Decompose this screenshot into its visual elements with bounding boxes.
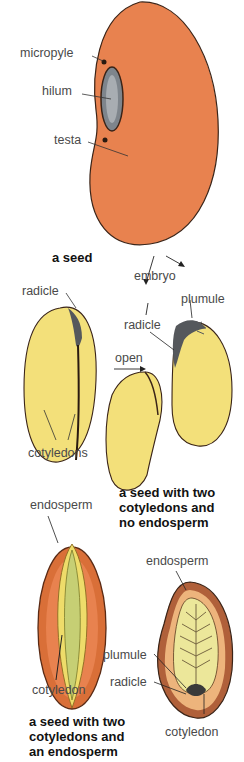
- label-embryo: embryo: [134, 270, 176, 283]
- label-radicle-left: radicle: [22, 285, 59, 298]
- endosperm-dicot-seed: [38, 516, 106, 709]
- label-endosperm-right: endosperm: [146, 555, 209, 568]
- label-cotyledon-right: cotyledon: [165, 726, 219, 739]
- seed-with-plumule: [154, 571, 233, 718]
- label-plumule-bottom: plumule: [103, 649, 147, 662]
- caption-a-seed: a seed: [52, 250, 92, 265]
- label-testa: testa: [54, 134, 81, 147]
- label-plumule-top: plumule: [181, 293, 225, 306]
- closed-bean: [24, 293, 96, 462]
- label-cotyledons: cotyledons: [28, 447, 88, 460]
- label-endosperm-left: endosperm: [30, 499, 93, 512]
- label-open: open: [115, 352, 143, 365]
- label-micropyle: micropyle: [20, 47, 74, 60]
- label-hilum: hilum: [42, 85, 72, 98]
- bean-seed: [82, 2, 218, 245]
- label-radicle-bottom: radicle: [110, 676, 147, 689]
- label-cotyledon-left: cotyledon: [32, 684, 86, 697]
- caption-with-endosperm: a seed with two cotyledons and an endosp…: [29, 714, 125, 759]
- label-radicle-right: radicle: [124, 319, 161, 332]
- caption-no-endosperm: a seed with two cotyledons and no endosp…: [119, 485, 215, 530]
